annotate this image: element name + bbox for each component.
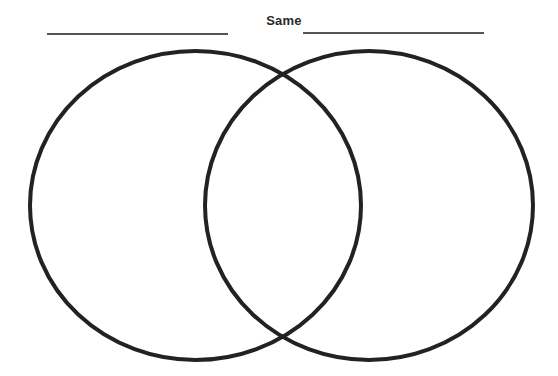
left-circle [30, 51, 361, 360]
right-circle [205, 51, 533, 360]
venn-diagram [0, 0, 558, 376]
